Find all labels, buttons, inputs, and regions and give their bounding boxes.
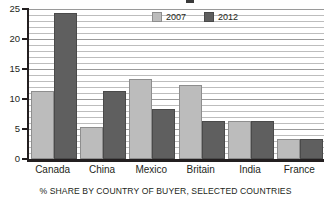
bar-mexico-2007 (129, 79, 152, 159)
x-axis-label-france: France (275, 164, 324, 176)
y-tick-25 (22, 8, 28, 10)
bar-canada-2007 (31, 91, 54, 159)
bar-india-2012 (251, 121, 274, 159)
y-tick-5 (22, 128, 28, 130)
x-axis-label-britain: Britain (176, 164, 225, 176)
x-axis-label-china: China (77, 164, 126, 176)
bar-canada-2012 (54, 13, 77, 159)
y-tick-10 (22, 98, 28, 100)
x-axis-label-canada: Canada (28, 164, 77, 176)
chart-legend: 2007 2012 (152, 12, 238, 22)
bar-britain-2007 (179, 85, 202, 159)
bar-mexico-2012 (152, 109, 175, 159)
x-axis-line (27, 159, 324, 162)
clipped-title-remnant (186, 0, 194, 3)
bar-britain-2012 (202, 121, 225, 159)
x-axis-label-india: India (225, 164, 274, 176)
bar-china-2012 (103, 91, 126, 159)
legend-label-2012: 2012 (218, 13, 238, 22)
y-tick-20 (22, 38, 28, 40)
y-tick-label-5: 5 (0, 124, 20, 134)
legend-item-2007: 2007 (152, 12, 186, 22)
bar-france-2007 (277, 139, 300, 159)
y-tick-label-20: 20 (0, 34, 20, 44)
chart-caption: % SHARE BY COUNTRY OF BUYER, SELECTED CO… (0, 186, 331, 196)
legend-swatch-2012-icon (204, 12, 214, 22)
y-tick-label-0: 0 (0, 154, 20, 164)
y-tick-label-10: 10 (0, 94, 20, 104)
bar-china-2007 (80, 127, 103, 159)
y-tick-0 (22, 158, 28, 160)
bar-india-2007 (228, 121, 251, 159)
x-axis-label-mexico: Mexico (127, 164, 176, 176)
y-tick-label-15: 15 (0, 64, 20, 74)
y-tick-label-25: 25 (0, 4, 20, 14)
bar-chart: 0510152025 CanadaChinaMexicoBritainIndia… (0, 0, 331, 206)
y-tick-15 (22, 68, 28, 70)
legend-item-2012: 2012 (204, 12, 238, 22)
bar-france-2012 (300, 139, 323, 159)
legend-label-2007: 2007 (166, 13, 186, 22)
plot-area (28, 9, 324, 159)
legend-swatch-2007-icon (152, 12, 162, 22)
y-axis-line (27, 8, 29, 160)
